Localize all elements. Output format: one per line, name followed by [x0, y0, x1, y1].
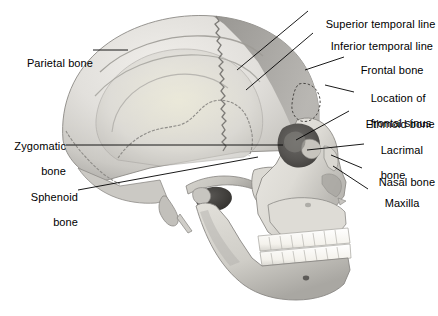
label-location-of-frontal-sinus-line-0: Location of: [371, 92, 426, 104]
label-inferior-temporal-line-line-0: Inferior temporal line: [331, 40, 433, 52]
mastoid-process: [159, 196, 178, 226]
mandibular-condyle: [193, 188, 211, 205]
styloid-process: [177, 214, 192, 233]
label-sphenoid-bone-line-0: Sphenoid: [31, 191, 78, 203]
label-maxilla-line-0: Maxilla: [385, 197, 420, 209]
infraorbital-foramen: [305, 203, 311, 207]
skull-lateral-view-figure: Parietal bone Zygomatic bone Sphenoid bo…: [0, 0, 438, 316]
label-sphenoid-bone-line-1: bone: [53, 216, 78, 228]
label-frontal-bone-line-0: Frontal bone: [361, 64, 424, 76]
label-lacrimal-bone-line-0: Lacrimal: [381, 144, 423, 156]
label-sphenoid-bone: Sphenoid bone: [0, 178, 78, 241]
mental-foramen: [303, 276, 309, 281]
label-zygomatic-bone-line-1: bone: [41, 165, 66, 177]
label-zygomatic-bone-line-0: Zygomatic: [14, 140, 66, 152]
label-maxilla: Maxilla: [372, 184, 420, 222]
label-parietal-bone-line-0: Parietal bone: [27, 57, 93, 69]
label-ethmoid-bone-line-0: Ethmoid bone: [366, 118, 435, 130]
label-parietal-bone: Parietal bone: [0, 44, 93, 82]
